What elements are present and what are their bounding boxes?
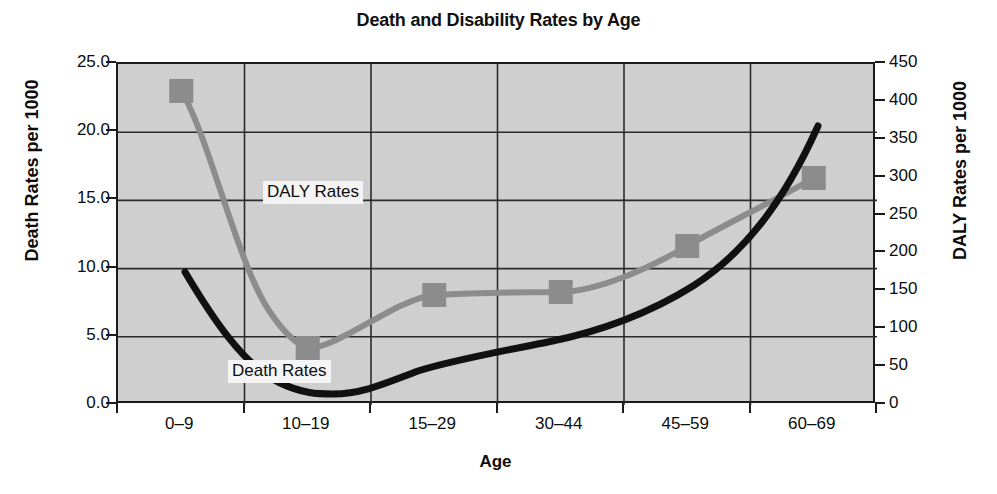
y-right-tick: 50 — [889, 355, 949, 375]
death-rates-callout-label: Death Rates — [228, 360, 331, 383]
y-right-tick: 250 — [889, 204, 949, 224]
y-axis-left-ticklabels: 0.0 5.0 10.0 15.0 20.0 25.0 — [30, 62, 110, 403]
daly-rates-callout-label: DALY Rates — [263, 181, 363, 204]
x-tick-label: 10–19 — [251, 414, 361, 434]
y-left-tick: 0.0 — [38, 393, 110, 413]
y-right-tick: 200 — [889, 241, 949, 261]
x-tick-label: 15–29 — [377, 414, 487, 434]
y-left-tick: 15.0 — [38, 188, 110, 208]
y-right-tick: 100 — [889, 317, 949, 337]
x-tick-label: 60–69 — [757, 414, 867, 434]
y-right-tick: 400 — [889, 90, 949, 110]
plot-canvas — [118, 64, 877, 405]
y-left-tick: 20.0 — [38, 120, 110, 140]
y-right-tick: 300 — [889, 166, 949, 186]
y-axis-left-tickmarks — [106, 62, 116, 403]
x-axis-ticklabels: 0–9 10–19 15–29 30–44 45–59 60–69 — [116, 414, 875, 438]
x-tick-label: 30–44 — [504, 414, 614, 434]
series-death-rates — [185, 126, 818, 394]
y-axis-right-ticklabels: 0 50 100 150 200 250 300 350 400 450 — [889, 62, 955, 403]
y-right-tick: 0 — [889, 393, 949, 413]
y-right-tick: 350 — [889, 128, 949, 148]
x-tick-label: 45–59 — [630, 414, 740, 434]
y-right-tick: 450 — [889, 52, 949, 72]
chart-figure: Death and Disability Rates by Age Death … — [0, 0, 997, 494]
x-axis-title: Age — [116, 452, 875, 472]
y-left-tick: 5.0 — [38, 325, 110, 345]
chart-title: Death and Disability Rates by Age — [0, 10, 997, 31]
x-tick-label: 0–9 — [124, 414, 234, 434]
plot-area: DALY Rates Death Rates — [116, 62, 875, 403]
y-left-tick: 25.0 — [38, 52, 110, 72]
y-left-tick: 10.0 — [38, 257, 110, 277]
y-right-tick: 150 — [889, 279, 949, 299]
